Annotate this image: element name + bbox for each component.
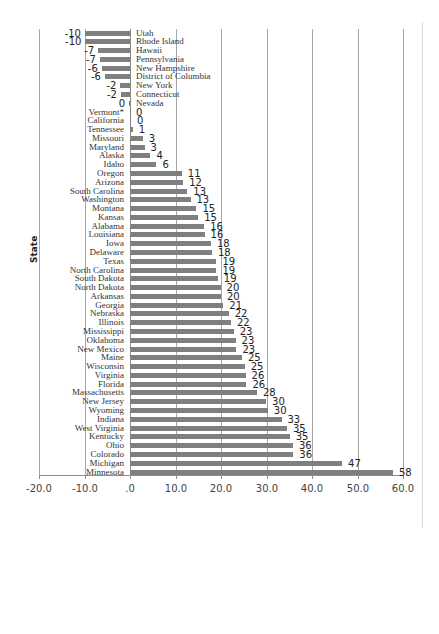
bar [130,206,196,211]
bar-chart: -20.0-10.0.010.020.030.040.050.060.0 Uta… [0,0,439,634]
x-tick [130,475,131,479]
bar [130,470,393,475]
x-tick-label: 40.0 [301,483,323,494]
bar [130,118,131,123]
bar [130,390,257,395]
bar [130,399,266,404]
bar [130,303,223,308]
value-label: 47 [348,458,361,469]
bar [130,145,145,150]
bar [130,171,182,176]
gridline [85,29,86,475]
bar [130,259,216,264]
bar [130,110,131,115]
bar [130,276,218,281]
bar [130,364,245,369]
value-label: 1 [139,124,145,135]
gridline [403,29,404,475]
x-tick-label: 20.0 [210,483,232,494]
x-tick-label: -20.0 [26,483,52,494]
category-label: Minnesota [86,467,124,478]
gridline [312,29,313,475]
bar [85,31,130,36]
value-label: 58 [399,467,412,478]
bar [129,101,130,106]
bar [130,311,229,316]
y-axis-label: State [29,239,39,263]
x-tick [176,475,177,479]
bar [100,57,130,62]
x-tick-label: 10.0 [165,483,187,494]
bar [130,268,216,273]
bar [105,74,130,79]
x-tick-label: -10.0 [72,483,98,494]
value-label: 30 [274,405,287,416]
bar [130,215,198,220]
x-tick-label: 30.0 [256,483,278,494]
bar [130,224,204,229]
bar [130,338,236,343]
bar [130,162,156,167]
x-tick [358,475,359,479]
x-tick-label: .0 [125,483,135,494]
value-label: -10 [65,36,81,47]
bar [130,452,293,457]
bar [130,250,212,255]
bar [130,189,187,194]
chart-right-border [422,22,423,528]
value-label: 36 [299,449,312,460]
bar [130,373,246,378]
x-tick [312,475,313,479]
bar [130,180,183,185]
x-tick [39,475,40,479]
bar [85,39,130,44]
bar [130,320,231,325]
bar [102,66,130,71]
bar [130,426,287,431]
bar [130,443,293,448]
bar [130,434,290,439]
x-tick [267,475,268,479]
bar [130,355,242,360]
bar [130,153,150,158]
bar [130,461,342,466]
bar [130,136,143,141]
x-tick [221,475,222,479]
bar [130,347,236,352]
bar [130,285,221,290]
value-label: -6 [91,71,101,82]
value-label: 6 [162,159,168,170]
bar [130,408,268,413]
bar [130,329,234,334]
x-tick-label: 50.0 [347,483,369,494]
bar [130,241,211,246]
gridline [39,29,40,475]
bar [130,294,221,299]
bar [98,48,130,53]
bar [130,232,205,237]
value-label: -2 [107,89,117,100]
bar [121,92,130,97]
bar [130,127,133,132]
bar [130,417,282,422]
bar [120,83,130,88]
x-tick-label: 60.0 [392,483,414,494]
gridline [358,29,359,475]
bar [130,197,191,202]
bar [130,382,246,387]
